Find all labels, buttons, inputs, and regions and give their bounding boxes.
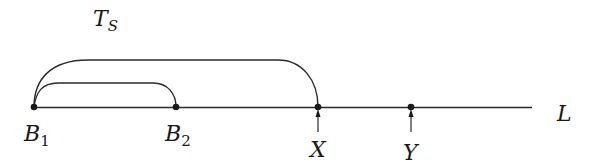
diagram-canvas: TS B1 B2 X Y L [0, 0, 599, 168]
label-B1: B1 [23, 121, 50, 150]
arc-B1-B2 [34, 83, 176, 107]
label-Y: Y [403, 140, 420, 165]
point-B2 [173, 104, 180, 111]
arrow-up-icon [409, 109, 414, 132]
point-B1 [31, 104, 38, 111]
label-L: L [556, 101, 572, 126]
label-B2: B2 [164, 121, 191, 150]
label-T-S: TS [93, 6, 118, 35]
label-X: X [308, 137, 327, 162]
arrow-up-icon [316, 109, 321, 132]
